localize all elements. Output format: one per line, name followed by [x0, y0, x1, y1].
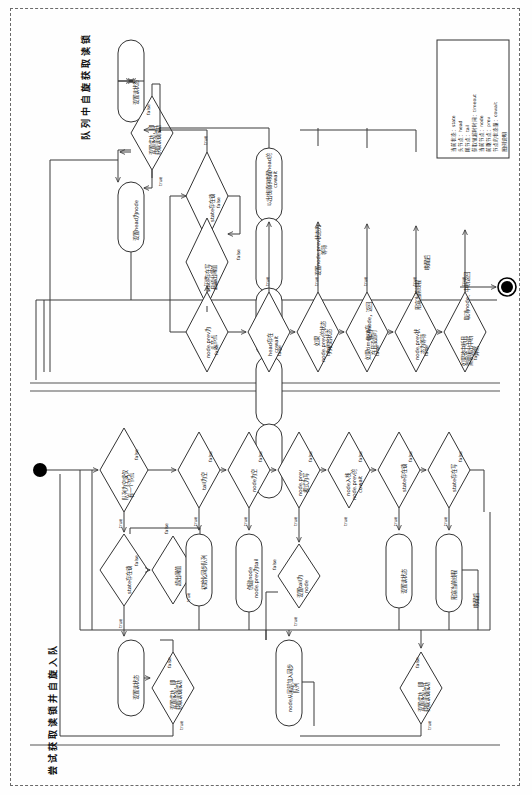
- label-l-node-null: node为空: [251, 469, 257, 492]
- edge-label-l-tailnull-true: true: [193, 517, 198, 526]
- label-u-pop-cowait: 以出栈顺序唤醒head的cowait: [266, 153, 278, 206]
- edge-label-l-setok-true: true: [179, 721, 184, 730]
- legend-entry-2: 尾节点：tail: [465, 125, 471, 152]
- edge-label-u-prevwait-true: true: [412, 277, 417, 286]
- label-l-state-lock2: state存在锁: [401, 464, 407, 492]
- start-node: [33, 463, 47, 477]
- edge-label-u-headcowait-false: false: [277, 345, 282, 356]
- edge-label-u-setok-true: true: [158, 177, 163, 186]
- edge-label-l-settail-false: false: [272, 559, 277, 570]
- edge-label-l-prevwrite-true: true: [293, 517, 298, 526]
- node-l-park: [436, 534, 462, 612]
- node-u-set-head: [118, 182, 144, 252]
- label-l-queue-empty: 队列为空或仅有一个节点: [122, 470, 134, 500]
- label-u-park-note: 唤醒后: [424, 255, 430, 270]
- edge-label-l-overlimit-true: true: [186, 593, 191, 602]
- label-u-set-prev-wait: 设置node.prev状态为等待: [315, 225, 327, 276]
- edge-label-l-setok2-true: true: [427, 721, 432, 730]
- legend-entry-4: 当前节点：node: [479, 116, 485, 152]
- edge-label-u-statelock-false: false: [216, 197, 221, 208]
- label-l-over-limit: 超出阈值: [175, 566, 181, 586]
- label-l-enqueue-tail: node从尾部加入同步队列: [287, 664, 299, 712]
- edge-label-l-setok2-false: false: [415, 657, 420, 668]
- edge-label-u-interrupt-true: true: [461, 277, 466, 286]
- label-u-set-ok: 设置成功，即获取读锁成功: [149, 125, 161, 155]
- flowchart-page: 队列中自旋获取读锁 尝试获取读锁并自旋入队 图例说明 当前状态：state 头节…: [0, 0, 532, 795]
- legend-entry-1: 头节点：head: [458, 121, 464, 152]
- edge-label-u-timeout-false: false: [375, 345, 380, 356]
- edge-label-u-previnit-true: true: [314, 277, 319, 286]
- edge-label-l-queueempty-false: false: [134, 449, 139, 460]
- edge-label-u-statelock-true: true: [203, 136, 208, 145]
- edge-label-u-previshead-false: false: [214, 344, 219, 355]
- label-l-tail-null: tail为空: [201, 472, 207, 490]
- label-l-set-ok2: 设置成功，即获取读锁成功: [418, 682, 430, 712]
- edge-label-u-prevwait-false: false: [424, 345, 429, 356]
- lower-swimlane-title: 尝试获取读锁并自旋入队: [46, 643, 59, 775]
- end-node-core: [501, 281, 513, 293]
- edge-label-u-write-true: true: [213, 281, 218, 290]
- edge-label-u-timeout-true: true: [363, 277, 368, 286]
- edge-label-u-previnit-false: false: [326, 345, 331, 356]
- node-u-head-cowait: [248, 292, 290, 372]
- edge-label-l-statelock-true: true: [118, 619, 123, 628]
- label-l-park: 阻塞当前线程: [451, 570, 457, 600]
- legend-entry-3: 获取锁超时时间：timeout: [472, 94, 478, 152]
- edge-label-u-previshead-true: true: [203, 277, 208, 286]
- label-l-set-read-state: 设置读状态: [133, 675, 139, 700]
- edge-label-l-settail-true: true: [293, 617, 298, 626]
- edge-label-l-statewrite-false: false: [458, 451, 463, 462]
- label-l-set-tail: 设置tail为node: [297, 575, 309, 598]
- label-u-cancel-return: 取消node，返回: [366, 302, 372, 340]
- edge-label-l-setok-false: false: [167, 657, 172, 668]
- edge-label-l-pushcowait-true: true: [343, 517, 348, 526]
- edge-label-l-nodenull-false: false: [258, 451, 263, 462]
- edge-label-l-nodenull-true: true: [243, 517, 248, 526]
- edge-label-l-statewrite-true: true: [443, 517, 448, 526]
- label-l-state-lock: state存在锁: [126, 566, 132, 594]
- label-l-create-node: 创建nodenode.prev为tail: [247, 559, 259, 598]
- edge-label-u-setok-false: false: [146, 104, 151, 115]
- edge-label-l-tailnull-false: false: [208, 451, 213, 462]
- legend-entry-0: 当前状态：state: [451, 115, 457, 152]
- legend-entry-5: 前驱节点：prev: [486, 117, 492, 152]
- legend-title: 图例说明: [500, 132, 507, 152]
- node-l-set-read-state2: [386, 534, 412, 608]
- label-l-set-ok: 设置成功，即获取读锁成功: [170, 680, 182, 710]
- edge-label-l-statelock2-false: false: [408, 451, 413, 462]
- label-l-state-write: state存在写: [451, 464, 457, 492]
- label-u-state-lock: state存在锁: [209, 194, 215, 222]
- edge-label-l-prevwrite-false: false: [308, 451, 313, 462]
- edge-label-l-statelock2-true: true: [393, 517, 398, 526]
- label-l-set-read-state2: 设置读状态: [401, 569, 407, 594]
- label-l-push-cowait: node入栈node.prev的cowait: [345, 469, 364, 500]
- edge-label-l-statelock-false: false: [134, 555, 139, 566]
- label-l-prev-write: node.prev模式为写: [297, 470, 309, 496]
- node-l-set-read-state: [118, 640, 144, 716]
- edge-label-u-interrupt-false: false: [473, 349, 478, 360]
- edge-label-l-overlimit-false: false: [164, 523, 169, 534]
- node-l-tail-null: [178, 432, 220, 508]
- edge-label-l-pushcowait-false: false: [358, 451, 363, 462]
- node-l-state-lock: [100, 534, 148, 606]
- label-l-init-queue: 初始化同步队列: [201, 555, 207, 590]
- node-l-state-lock2: [378, 432, 420, 508]
- edge-label-l-queueempty-true: true: [118, 519, 123, 528]
- label-u-set-head: 设置head为node: [133, 200, 139, 241]
- label-l-park-note: 唤醒后: [473, 593, 479, 608]
- upper-swimlane-title: 队列中自旋获取读锁: [79, 32, 92, 140]
- node-l-state-write: [428, 432, 470, 508]
- edge-label-u-headcowait-true: true: [265, 277, 270, 286]
- legend-entry-6: 节点的状态量：cowait: [493, 102, 499, 152]
- edge-label-u-write-false: false: [236, 249, 241, 260]
- label-u-set-read-state: 设置读状态: [133, 80, 139, 105]
